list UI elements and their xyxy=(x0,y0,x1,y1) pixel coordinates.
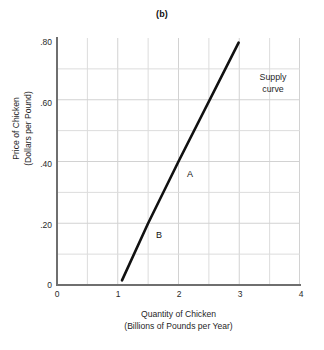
supply-curve-annotation-line2: curve xyxy=(236,84,310,96)
y-axis-title: Price of Chicken (Dollars per Pound) xyxy=(11,59,34,199)
x-tick-label-2: 2 xyxy=(167,289,191,299)
x-tick-label-3: 3 xyxy=(228,289,252,299)
y-tick-label-0: 0 xyxy=(22,280,52,290)
x-axis-spine xyxy=(56,284,301,286)
x-axis-title: Quantity of Chicken (Billions of Pounds … xyxy=(57,309,300,332)
x-axis-title-line1: Quantity of Chicken xyxy=(57,309,300,321)
x-tick-label-4: 4 xyxy=(289,289,313,299)
supply-curve-annotation: Supply curve xyxy=(236,72,310,95)
supply-curve-figure: (b) 0 1 2 3 4 0 .20 .40 xyxy=(0,0,324,350)
y-tick-label-80: .80 xyxy=(22,37,52,47)
y-axis-title-line2: (Dollars per Pound) xyxy=(22,59,34,199)
supply-curve-annotation-line1: Supply xyxy=(236,72,310,84)
x-tick-label-1: 1 xyxy=(106,289,130,299)
chart-title: (b) xyxy=(0,9,324,19)
y-axis-spine xyxy=(56,37,58,286)
series-0-path xyxy=(122,43,239,281)
x-axis-title-line2: (Billions of Pounds per Year) xyxy=(57,321,300,333)
point-label-b: B xyxy=(156,230,162,240)
x-tick-label-0: 0 xyxy=(45,289,69,299)
point-label-a: A xyxy=(187,169,193,179)
y-axis-title-line1: Price of Chicken xyxy=(11,59,23,199)
y-tick-label-20: .20 xyxy=(22,220,52,230)
